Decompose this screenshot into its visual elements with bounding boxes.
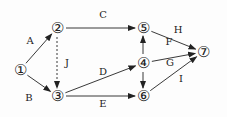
edge-label-b: B (25, 92, 32, 103)
node-1: ① (14, 61, 27, 79)
diagram-canvas: ①②③④⑤⑥⑦ ABCJDEHFGI (0, 0, 227, 117)
edge-label-h: H (174, 24, 183, 35)
node-2: ② (51, 19, 64, 37)
edge-label-e: E (99, 98, 106, 109)
network-diagram: ①②③④⑤⑥⑦ ABCJDEHFGI (0, 0, 227, 117)
edge-label-i: I (179, 73, 183, 84)
edge-label-j: J (64, 57, 69, 68)
node-3: ③ (51, 87, 64, 105)
edge-label-g: G (166, 57, 174, 68)
edge-label-a: A (25, 35, 34, 46)
edge-labels-layer: ABCJDEHFGI (25, 9, 183, 109)
edge-label-f: F (166, 36, 173, 47)
node-4: ④ (137, 54, 150, 72)
node-7: ⑦ (197, 43, 210, 61)
edge-label-d: D (99, 66, 107, 77)
node-6: ⑥ (137, 87, 150, 105)
node-5: ⑤ (137, 19, 150, 37)
edge-label-c: C (99, 9, 107, 20)
edge-b (27, 75, 50, 91)
